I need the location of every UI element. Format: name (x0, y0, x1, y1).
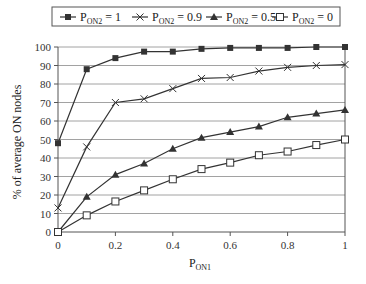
filled-square-marker (256, 45, 262, 51)
line-chart: PON2 = 1PON2 = 0.9PON2 = 0.5PON2 = 0 010… (0, 0, 366, 284)
filled-square-marker (55, 140, 61, 146)
legend: PON2 = 1PON2 = 0.9PON2 = 0.5PON2 = 0 (52, 7, 340, 26)
y-tick-label: 80 (40, 78, 52, 90)
x-tick-label: 0.6 (223, 239, 237, 251)
open-square-marker (342, 136, 349, 143)
filled-square-marker (170, 49, 176, 55)
open-square-marker (284, 148, 291, 155)
y-tick-label: 0 (46, 226, 52, 238)
open-square-marker (255, 152, 262, 159)
y-tick-label: 90 (40, 60, 52, 72)
filled-square-marker (112, 55, 118, 61)
open-square-marker (112, 198, 119, 205)
y-tick-label: 10 (40, 208, 52, 220)
open-square-marker (169, 176, 176, 183)
filled-square-marker (342, 44, 348, 50)
y-tick-label: 70 (40, 97, 52, 109)
x-tick-label: 1 (342, 239, 348, 251)
filled-square-marker (141, 49, 147, 55)
y-tick-label: 60 (40, 115, 52, 127)
y-axis-title: % of average ON nodes (10, 84, 24, 199)
open-square-marker (227, 159, 234, 166)
filled-square-marker (84, 66, 90, 72)
y-tick-label: 100 (35, 41, 52, 53)
y-tick-label: 50 (40, 134, 52, 146)
x-tick-label: 0.4 (166, 239, 180, 251)
open-square-marker (277, 14, 284, 21)
filled-square-marker (227, 45, 233, 51)
y-tick-label: 40 (40, 152, 52, 164)
x-tick-label: 0 (55, 239, 61, 251)
filled-square-marker (313, 44, 319, 50)
filled-square-marker (199, 46, 205, 52)
open-square-marker (83, 212, 90, 219)
filled-square-marker (65, 14, 71, 20)
y-tick-label: 20 (40, 189, 52, 201)
open-square-marker (198, 166, 205, 173)
x-tick-label: 0.8 (281, 239, 295, 251)
y-tick-label: 30 (40, 171, 52, 183)
x-tick-label: 0.2 (109, 239, 123, 251)
open-square-marker (141, 187, 148, 194)
filled-square-marker (285, 45, 291, 51)
open-square-marker (313, 142, 320, 149)
open-square-marker (55, 229, 62, 236)
